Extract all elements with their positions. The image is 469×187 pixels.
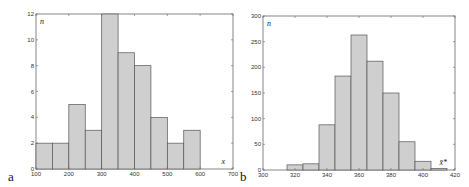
histogram-bar — [52, 143, 68, 169]
histogram-bar — [431, 168, 447, 170]
histogram-bar — [151, 117, 167, 169]
histogram-figure: 100200300400500600700024681012nxa 300320… — [0, 0, 469, 187]
y-axis-label: n — [267, 19, 271, 28]
x-tick-label: 400 — [129, 171, 140, 177]
histogram-bar — [367, 61, 383, 170]
histogram-bar — [102, 14, 118, 169]
panel-label: b — [240, 169, 247, 184]
histogram-bar — [335, 76, 351, 170]
histogram-bar — [351, 35, 367, 170]
y-tick-label: 6 — [31, 89, 35, 95]
histogram-bar — [69, 104, 85, 169]
y-tick-label: 150 — [251, 90, 262, 96]
x-tick-label: 380 — [386, 172, 397, 178]
y-tick-label: 250 — [251, 39, 262, 45]
histogram-panel-b: 300320340360380400420050100150200250300n… — [240, 13, 461, 184]
histogram-bar — [399, 142, 415, 170]
panel-label: a — [8, 169, 14, 184]
x-tick-label: 340 — [322, 172, 333, 178]
histogram-bar — [85, 130, 101, 169]
y-tick-label: 8 — [31, 63, 35, 69]
x-tick-label: 500 — [162, 171, 173, 177]
y-tick-label: 100 — [251, 116, 262, 122]
histogram-bar — [303, 164, 319, 170]
histogram-bar — [167, 143, 183, 169]
y-tick-label: 2 — [31, 140, 35, 146]
histogram-bar — [36, 143, 52, 169]
histogram-bar — [383, 93, 399, 170]
y-tick-label: 10 — [27, 37, 34, 43]
x-axis-label: x — [220, 157, 225, 166]
y-tick-label: 50 — [254, 141, 261, 147]
x-axis-label: x̄* — [438, 158, 447, 167]
x-tick-label: 600 — [195, 171, 206, 177]
y-tick-label: 4 — [31, 114, 35, 120]
y-tick-label: 12 — [27, 11, 34, 17]
y-tick-label: 200 — [251, 64, 262, 70]
histogram-bar — [184, 130, 200, 169]
x-tick-label: 360 — [354, 172, 365, 178]
y-axis-label: n — [40, 17, 44, 26]
histogram-bar — [319, 125, 335, 170]
x-tick-label: 300 — [97, 171, 108, 177]
x-tick-label: 320 — [290, 172, 301, 178]
x-tick-label: 200 — [64, 171, 75, 177]
x-tick-label: 420 — [450, 172, 461, 178]
x-tick-label: 700 — [228, 171, 239, 177]
y-tick-label: 300 — [251, 13, 262, 19]
x-tick-label: 400 — [418, 172, 429, 178]
histogram-panel-a: 100200300400500600700024681012nxa — [8, 11, 239, 184]
histogram-bar — [118, 53, 134, 169]
histogram-bar — [135, 66, 151, 169]
